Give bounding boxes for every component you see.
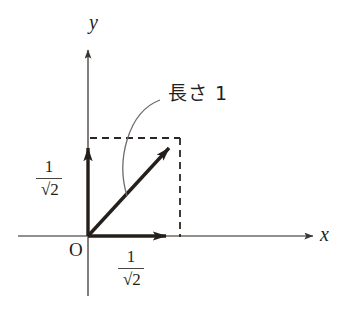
fraction-numerator: 1	[36, 158, 62, 177]
vector-diagram	[0, 0, 346, 310]
radicand: 2	[132, 270, 141, 289]
fraction-numerator: 1	[118, 248, 144, 267]
fraction-denominator: √2	[118, 270, 144, 289]
radical-glyph: √	[123, 270, 132, 289]
fraction-y-component: 1 √2	[36, 158, 62, 199]
radical-glyph: √	[41, 180, 50, 199]
figure-root: y x O 長さ 1 1 √2 1 √2	[0, 0, 346, 310]
fraction-x-component: 1 √2	[118, 248, 144, 289]
x-component-value-label: 1 √2	[118, 248, 144, 289]
origin-label: O	[69, 240, 83, 259]
y-axis-label: y	[89, 12, 98, 32]
fraction-denominator: √2	[36, 180, 62, 199]
leader-curve	[123, 100, 160, 196]
radicand: 2	[50, 180, 59, 199]
resultant-vector	[88, 148, 169, 236]
radical-sign: √2	[39, 181, 59, 199]
radical-sign: √2	[121, 271, 141, 289]
fraction-bar	[118, 268, 144, 269]
vector-length-label: 長さ 1	[168, 84, 228, 103]
x-axis-label: x	[320, 224, 329, 244]
y-component-value-label: 1 √2	[36, 158, 62, 199]
fraction-bar	[36, 178, 62, 179]
